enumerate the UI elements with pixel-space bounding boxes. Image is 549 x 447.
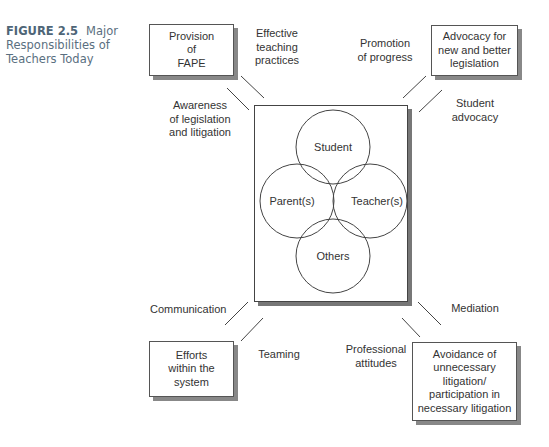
line-mediation	[418, 302, 441, 325]
line-promotion	[403, 76, 426, 98]
diagram-lines	[0, 0, 549, 447]
venn-label-teachers: Teacher(s)	[351, 195, 403, 207]
line-professional-attitudes	[402, 318, 420, 337]
line-teaming	[241, 318, 263, 341]
venn-label-others: Others	[316, 250, 349, 262]
line-awareness	[227, 88, 249, 110]
line-communication	[225, 302, 248, 325]
venn-label-student: Student	[314, 141, 352, 153]
venn-label-parents: Parent(s)	[269, 195, 314, 207]
line-effective-teaching	[241, 76, 264, 98]
line-student-advocacy	[419, 90, 442, 112]
